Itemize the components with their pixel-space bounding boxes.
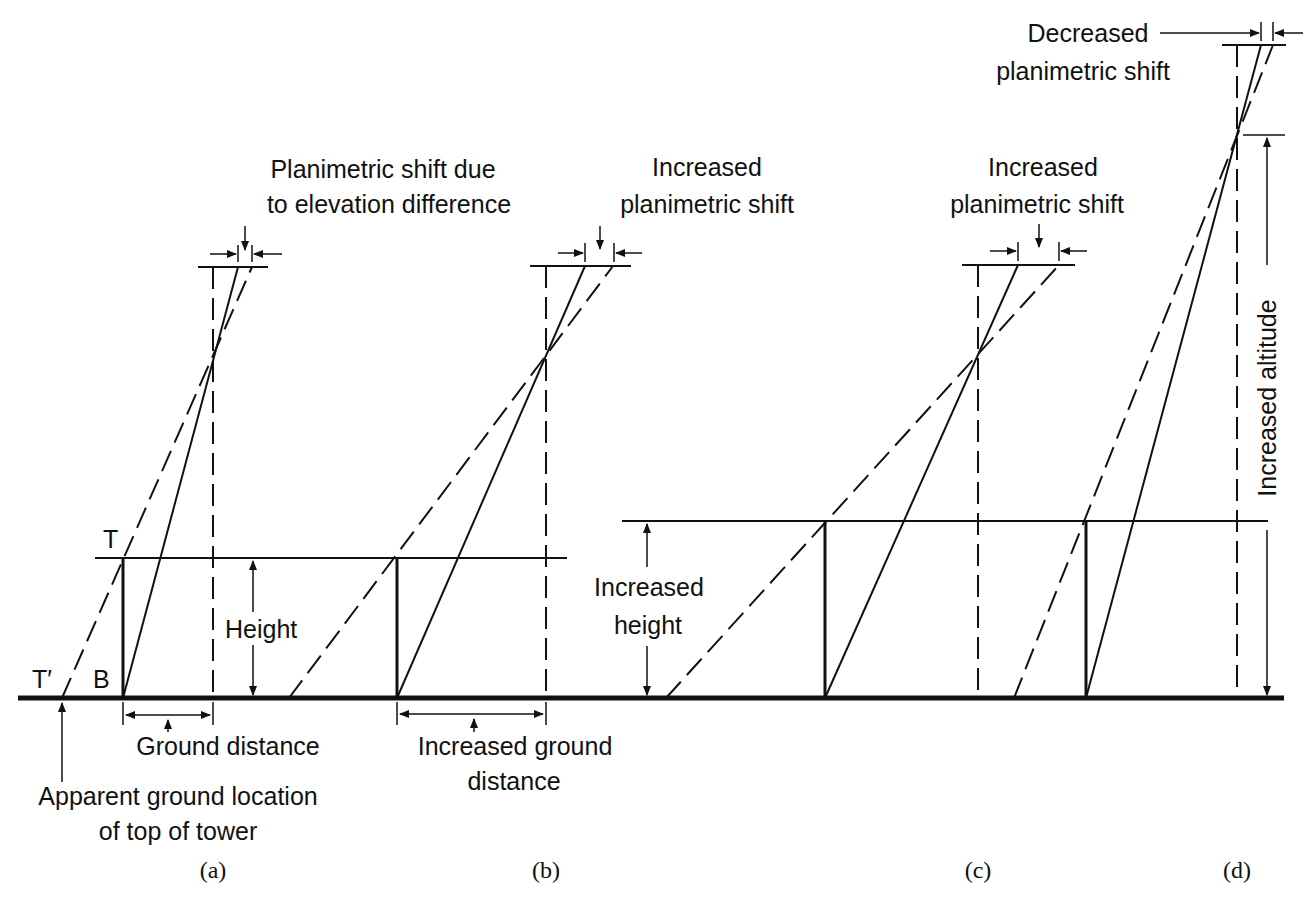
label-apparent-1: Apparent ground location [38,782,317,810]
label-increased-altitude: Increased altitude [1253,299,1281,496]
label-shift-c-2: planimetric shift [950,190,1124,218]
label-shift-c-1: Increased [988,153,1098,181]
ray-base-a [123,267,238,698]
ray-top-c [666,265,1059,698]
label-height: Height [225,615,297,643]
ray-top-b [289,266,613,698]
panel-c: Increased planimetric shift Increased he… [594,153,1268,883]
caption-c: (c) [965,857,992,883]
label-shift-b-1: Increased [652,153,762,181]
label-B: B [93,665,110,693]
panel-d: Decreased planimetric shift Increased al… [996,19,1303,883]
ray-base-b [397,266,585,698]
caption-b: (b) [532,857,560,883]
label-shift-b-2: planimetric shift [620,190,794,218]
label-inc-height-2: height [614,611,682,639]
label-shift-d-2: planimetric shift [996,57,1170,85]
panel-b: Increased planimetric shift Increased gr… [289,153,794,883]
label-inc-ground-2: distance [467,767,560,795]
label-shift-a-1: Planimetric shift due [270,155,495,183]
label-inc-height-1: Increased [594,573,704,601]
caption-d: (d) [1223,857,1251,883]
ray-base-c [825,265,1018,698]
label-shift-a-2: to elevation difference [267,190,511,218]
label-T-prime: T′ [32,665,52,693]
label-ground-distance: Ground distance [136,732,319,760]
label-apparent-2: of top of tower [99,817,257,845]
label-T: T [103,525,118,553]
label-inc-ground-1: Increased ground [418,732,613,760]
ray-top-d [1014,45,1273,698]
label-shift-d-1: Decreased [1028,19,1149,47]
ray-top-a [62,267,252,698]
caption-a: (a) [200,857,227,883]
relief-displacement-diagram: Planimetric shift due to elevation diffe… [0,0,1314,905]
